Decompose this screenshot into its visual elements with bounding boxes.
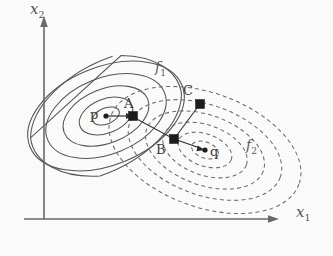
x-axis-arrowhead — [268, 215, 279, 223]
point-marker-c[interactable] — [196, 100, 205, 109]
point-marker-p[interactable] — [103, 113, 108, 118]
x-axis-label: x1 — [296, 205, 311, 223]
contour-diagram-figure: x2 x1 f1 f2 p A B C q — [0, 0, 333, 256]
point-label-b: B — [156, 143, 166, 156]
point-marker-b[interactable] — [170, 135, 179, 144]
point-marker-q[interactable] — [202, 147, 207, 152]
point-label-q: q — [210, 145, 218, 158]
segment-a-b — [133, 117, 174, 139]
point-label-c: C — [183, 84, 193, 97]
function-label-f2: f2 — [246, 138, 257, 156]
function-label-f1: f1 — [155, 60, 166, 78]
diagram-canvas — [0, 0, 333, 256]
point-label-a: A — [124, 97, 133, 110]
point-label-p: p — [90, 108, 98, 121]
point-marker-a[interactable] — [129, 112, 138, 121]
y-axis-label: x2 — [30, 2, 45, 20]
axes-group — [24, 16, 279, 223]
